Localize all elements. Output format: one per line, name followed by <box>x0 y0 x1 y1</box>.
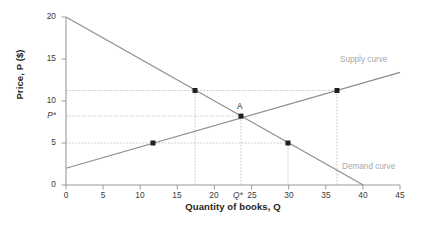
x-tick-label-40: 40 <box>350 190 376 200</box>
x-tick-label-5: 5 <box>90 190 116 200</box>
marker-demand-30-5 <box>286 141 291 146</box>
x-tick-label-qstar: Q* <box>227 190 249 200</box>
x-tick-label-15: 15 <box>164 190 190 200</box>
demand-curve-label: Demand curve <box>342 162 395 171</box>
x-tick-label-35: 35 <box>313 190 339 200</box>
x-axis-title: Quantity of books, Q <box>66 201 400 212</box>
guide-lines <box>66 91 337 186</box>
y-tick-label-5: 5 <box>34 137 56 147</box>
marker-supply-365-1125 <box>335 88 340 93</box>
marker-equilibrium-a <box>239 114 244 119</box>
x-tick-label-45: 45 <box>387 190 413 200</box>
x-tick-label-0: 0 <box>53 190 79 200</box>
supply-curve-label: Supply curve <box>340 55 387 64</box>
y-tick-label-10: 10 <box>34 95 56 105</box>
marker-demand-175-1125 <box>193 88 198 93</box>
x-tick-label-20: 20 <box>201 190 227 200</box>
x-axis-ticks <box>66 185 400 190</box>
equilibrium-point-label: A <box>237 102 242 111</box>
y-tick-label-0: 0 <box>34 179 56 189</box>
y-axis-ticks <box>62 17 67 185</box>
supply-demand-chart: Price, P ($) Quantity of books, Q 20 15 … <box>0 0 421 231</box>
marker-supply-12-5 <box>151 141 156 146</box>
y-tick-label-15: 15 <box>34 53 56 63</box>
x-tick-label-30: 30 <box>276 190 302 200</box>
y-tick-label-pstar: P* <box>34 110 56 120</box>
demand-curve-line <box>66 17 363 185</box>
x-tick-label-10: 10 <box>127 190 153 200</box>
y-tick-label-20: 20 <box>34 11 56 21</box>
y-axis-title: Price, P ($) <box>14 0 30 190</box>
supply-curve-line <box>66 72 400 168</box>
